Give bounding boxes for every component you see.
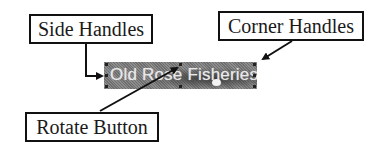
corner-handles-arrow: [263, 41, 292, 59]
rotate-button-arrow: [100, 68, 177, 111]
side-handles-arrow: [86, 44, 102, 76]
callout-arrows: [0, 0, 388, 152]
